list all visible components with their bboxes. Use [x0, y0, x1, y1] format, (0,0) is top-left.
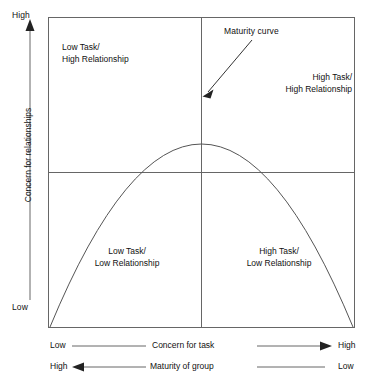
x-axis-primary-left-label: Low — [50, 340, 66, 350]
y-axis-high-label: High — [12, 10, 30, 21]
x-axis-secondary-right-label: Low — [338, 361, 354, 371]
situational-leadership-diagram: High Low Concern for relationships Low T… — [0, 0, 372, 383]
quadrant-label-bottom-left: Low Task/ Low Relationship — [60, 246, 194, 269]
quadrant-bottom-left-line1: Low Task/ — [60, 246, 194, 258]
quadrant-label-top-right: High Task/ High Relationship — [214, 72, 352, 95]
quadrant-label-bottom-right: High Task/ Low Relationship — [212, 246, 346, 269]
y-axis-low-label: Low — [12, 302, 28, 313]
concern-for-task-arrowhead-right — [320, 342, 332, 351]
y-axis-title: Concern for relationships — [23, 95, 33, 215]
x-axis-primary-right-label: High — [338, 340, 355, 350]
x-axis-secondary-left-label: High — [50, 361, 67, 371]
quadrant-label-top-left: Low Task/ High Relationship — [62, 42, 129, 65]
maturity-of-group-arrowhead-left — [72, 363, 84, 372]
maturity-curve-annotation-label: Maturity curve — [224, 26, 279, 37]
x-axis-secondary-title: Maturity of group — [150, 361, 214, 371]
x-axis-primary-title: Concern for task — [152, 340, 214, 350]
quadrant-bottom-left-line2: Low Relationship — [60, 258, 194, 270]
quadrant-bottom-right-line2: Low Relationship — [212, 258, 346, 270]
quadrant-bottom-right-line1: High Task/ — [212, 246, 346, 258]
quadrant-top-right-line2: High Relationship — [214, 84, 352, 96]
quadrant-top-left-line2: High Relationship — [62, 54, 129, 66]
quadrant-top-left-line1: Low Task/ — [62, 42, 129, 54]
maturity-curve-arrowhead — [203, 90, 214, 99]
diagram-canvas — [0, 0, 372, 383]
quadrant-top-right-line1: High Task/ — [214, 72, 352, 84]
